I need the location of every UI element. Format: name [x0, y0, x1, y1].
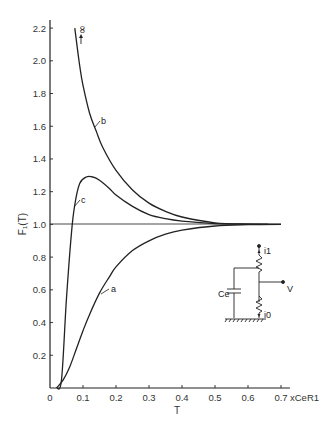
arrow-i0-icon: [258, 314, 261, 317]
ground-hatch-icon: [225, 319, 263, 322]
x-tick-label: 0.6: [241, 392, 254, 403]
x-tick-label: 0.3: [142, 392, 155, 403]
y-tick-label: 2.0: [33, 55, 46, 66]
x-axis-title: T: [174, 405, 180, 416]
curve-c: [57, 176, 281, 389]
terminal-v: [282, 281, 285, 284]
resistor-upper: [256, 255, 262, 272]
y-tick-label: 2.2: [33, 23, 46, 34]
infinity-symbol: ∞: [76, 25, 89, 34]
x-tick-label: 0.5: [208, 392, 221, 403]
y-tick-label: 0.8: [33, 252, 46, 263]
arrow-i1-icon: [258, 250, 261, 253]
chart: 0.20.40.60.81.01.21.41.61.82.02.2 00.10.…: [0, 0, 329, 428]
label-curve-a: a: [111, 284, 116, 294]
x-tick-label: 0.2: [109, 392, 122, 403]
x-axis-unit: xCeR1: [290, 392, 319, 403]
y-tick-label: 1.0: [33, 219, 46, 230]
y-tick-label: 0.2: [33, 350, 46, 361]
y-tick-label: 1.6: [33, 121, 46, 132]
y-tick-label: 0.4: [33, 317, 46, 328]
circuit-label-i1: i1: [264, 246, 271, 256]
circuit-label-i0: i0: [264, 310, 271, 320]
x-tick-label: 0.1: [76, 392, 89, 403]
y-tick-label: 1.2: [33, 186, 46, 197]
x-tick-label: 0.4: [175, 392, 188, 403]
leader-b: [95, 121, 100, 127]
curve-a: [57, 224, 281, 388]
label-curve-b: b: [101, 116, 106, 126]
y-tick-label: 1.4: [33, 153, 46, 164]
y-tick-label: 0.6: [33, 284, 46, 295]
y-tick-label: 1.8: [33, 88, 46, 99]
arrow-head-icon: [79, 34, 83, 38]
leader-a: [101, 289, 109, 294]
circuit-label-v: V: [287, 284, 293, 294]
label-curve-c: c: [81, 195, 86, 205]
x-tick-label: 0.7: [274, 392, 287, 403]
circuit-label-ce: Ce: [218, 289, 230, 299]
y-axis-title: F₁(T): [17, 213, 28, 235]
x-tick-label: 0: [47, 392, 52, 403]
inset-circuit: [225, 245, 285, 323]
curve-b: [75, 28, 281, 224]
